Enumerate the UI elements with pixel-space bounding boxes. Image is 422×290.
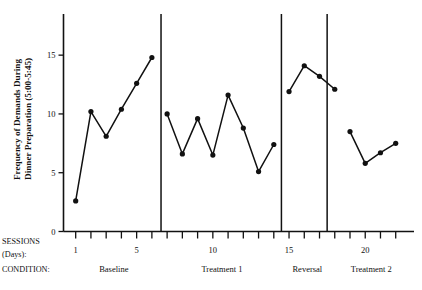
data-point-treatment-2-4 — [393, 141, 398, 146]
chart-canvas: Frequency of Demands During Dinner Prepa… — [0, 0, 422, 290]
phase-separators — [161, 14, 327, 232]
y-tick-label-15: 15 — [47, 50, 56, 60]
data-point-baseline-2 — [88, 109, 93, 114]
y-tick-label-0: 0 — [51, 227, 55, 237]
x-tick-label-10: 10 — [209, 245, 218, 255]
phase-labels: BaselineTreatment 1ReversalTreatment 2 — [99, 264, 392, 274]
data-point-baseline-3 — [104, 134, 109, 139]
data-point-treatment-2-3 — [378, 150, 383, 155]
x-axis — [64, 232, 415, 239]
data-point-reversal-4 — [332, 87, 337, 92]
data-series — [73, 55, 398, 204]
condition-row-label: CONDITION: — [2, 265, 50, 274]
data-point-treatment-1-2 — [180, 151, 185, 156]
series-line-treatment-2 — [350, 132, 396, 164]
y-axis-title: Frequency of Demands During Dinner Prepa… — [12, 58, 33, 180]
data-point-treatment-1-7 — [256, 169, 261, 174]
phase-label-reversal: Reversal — [292, 264, 322, 274]
data-point-treatment-1-4 — [210, 152, 215, 157]
x-tick-label-15: 15 — [285, 245, 294, 255]
sessions-row-label-line-1: SESSIONS — [2, 237, 40, 246]
data-point-reversal-3 — [317, 74, 322, 79]
y-axis-title-line-2: Dinner Preparation (5:00-5:45) — [23, 58, 33, 180]
y-axis-title-line-1: Frequency of Demands During — [12, 59, 22, 180]
data-point-baseline-5 — [134, 81, 139, 86]
data-point-baseline-4 — [119, 107, 124, 112]
data-point-treatment-1-5 — [225, 93, 230, 98]
data-point-treatment-1-8 — [271, 142, 276, 147]
data-point-treatment-2-1 — [347, 129, 352, 134]
y-axis: 051015 — [47, 14, 64, 237]
phase-label-treatment-1: Treatment 1 — [201, 264, 242, 274]
data-point-reversal-2 — [302, 63, 307, 68]
series-line-baseline — [76, 58, 152, 201]
series-line-treatment-1 — [167, 95, 274, 171]
data-point-baseline-1 — [73, 198, 78, 203]
data-point-treatment-1-6 — [241, 125, 246, 130]
x-tick-labels: 15101520 — [74, 245, 370, 255]
x-tick-label-1: 1 — [74, 245, 78, 255]
series-line-reversal — [289, 66, 335, 92]
sessions-row-label-line-2: (Days): — [2, 250, 27, 259]
x-tick-label-5: 5 — [135, 245, 139, 255]
phase-label-baseline: Baseline — [99, 264, 128, 274]
data-point-treatment-1-1 — [165, 111, 170, 116]
data-point-treatment-1-3 — [195, 116, 200, 121]
data-point-treatment-2-2 — [363, 161, 368, 166]
data-point-baseline-6 — [149, 55, 154, 60]
phase-label-treatment-2: Treatment 2 — [351, 264, 392, 274]
x-tick-label-20: 20 — [361, 245, 370, 255]
data-point-reversal-1 — [286, 89, 291, 94]
chart-figure: Frequency of Demands During Dinner Prepa… — [0, 0, 422, 290]
y-tick-label-5: 5 — [51, 168, 55, 178]
y-tick-label-10: 10 — [47, 109, 56, 119]
